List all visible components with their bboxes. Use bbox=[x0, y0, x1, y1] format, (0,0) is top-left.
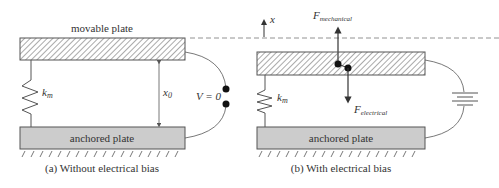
gap-label: x0 bbox=[162, 86, 172, 100]
wire-bottom bbox=[185, 106, 226, 138]
force-electrical-label: Felectrical bbox=[353, 103, 387, 117]
voltage-label: V = 0 bbox=[196, 90, 221, 102]
ground-hatch bbox=[22, 151, 178, 157]
panel-b: x Fmechanical Felectrical km anchored pl… bbox=[257, 9, 478, 175]
force-point-mechanical bbox=[335, 61, 342, 68]
anchored-plate-label: anchored plate bbox=[70, 132, 135, 144]
open-terminal-top bbox=[223, 86, 230, 93]
mems-parallel-plate-diagram: movable plate km x0 V = 0 anchored plate… bbox=[0, 0, 499, 188]
movable-plate-label: movable plate bbox=[71, 22, 133, 34]
voltage-source-icon bbox=[452, 93, 478, 105]
caption-b: (b) With electrical bias bbox=[291, 162, 391, 175]
panel-a: movable plate km x0 V = 0 anchored plate… bbox=[20, 22, 499, 175]
spring-label-b: km bbox=[277, 91, 288, 105]
caption-a: (a) Without electrical bias bbox=[45, 162, 159, 175]
ground-hatch-b bbox=[259, 151, 415, 157]
force-mechanical-label: Fmechanical bbox=[312, 9, 352, 23]
spring-label: km bbox=[42, 86, 53, 100]
wire-top-b bbox=[425, 60, 464, 92]
movable-plate bbox=[20, 38, 185, 60]
spring-icon bbox=[22, 60, 38, 127]
wire-top bbox=[185, 52, 226, 88]
x-axis-label: x bbox=[269, 13, 275, 25]
spring-icon-b bbox=[257, 75, 272, 127]
wire-bottom-b bbox=[425, 106, 464, 138]
open-terminal-bottom bbox=[223, 101, 230, 108]
anchored-plate-label-b: anchored plate bbox=[309, 132, 374, 144]
